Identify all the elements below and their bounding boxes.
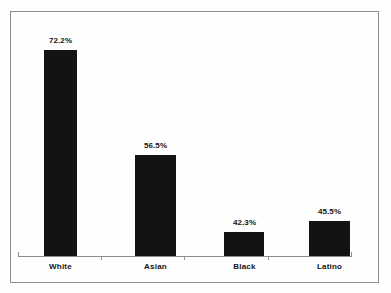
bar-black (224, 232, 264, 256)
x-axis-line (18, 256, 352, 257)
x-axis-left-cap (18, 252, 19, 257)
plot-area: 72.2% White 56.5% Asian 42.3% Black 45.5… (0, 0, 391, 293)
bar-value-black: 42.3% (214, 218, 275, 227)
bar-value-latino: 45.5% (299, 207, 360, 216)
x-axis-tick-1 (101, 257, 102, 260)
category-label-latino: Latino (299, 262, 360, 271)
bar-latino (309, 221, 350, 256)
bar-asian (135, 155, 176, 256)
bar-value-asian: 56.5% (125, 141, 186, 150)
x-axis-right-cap (351, 252, 352, 257)
x-axis-tick-2 (184, 257, 185, 260)
x-axis-tick-3 (268, 257, 269, 260)
bar-white (44, 50, 77, 256)
category-label-asian: Asian (125, 262, 186, 271)
bar-chart-figure: 72.2% White 56.5% Asian 42.3% Black 45.5… (0, 0, 391, 293)
category-label-white: White (30, 262, 91, 271)
category-label-black: Black (214, 262, 275, 271)
bar-value-white: 72.2% (30, 36, 91, 45)
